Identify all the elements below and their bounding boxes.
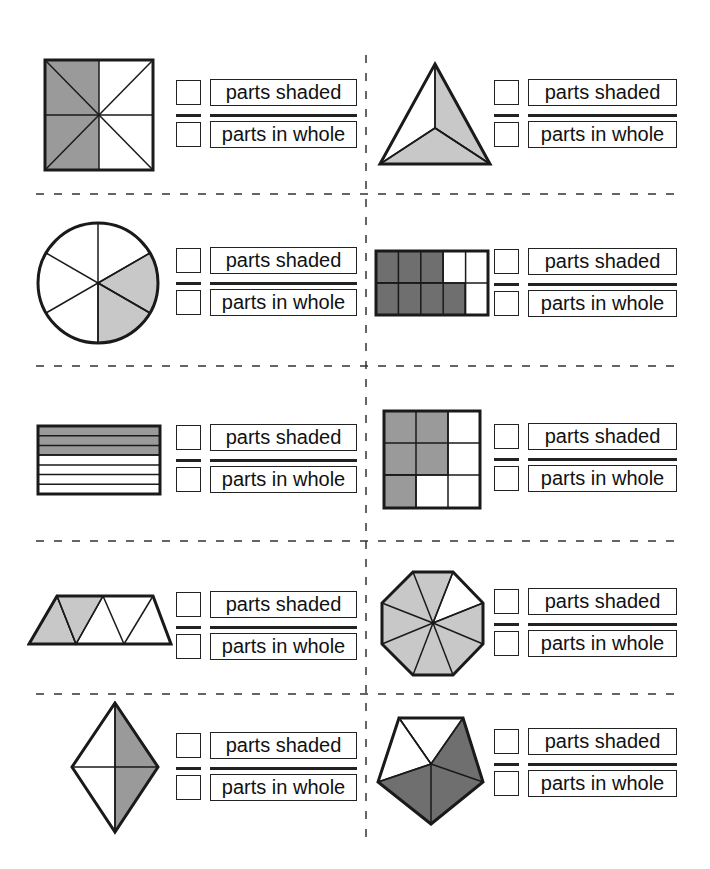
- fraction-answer-10: parts shaded parts in whole: [494, 729, 679, 803]
- fraction-answer-8: parts shaded parts in whole: [494, 589, 679, 663]
- fraction-bar: [494, 114, 519, 117]
- denominator-label: parts in whole: [528, 465, 677, 492]
- trapezoid-5-parts-figure: [27, 594, 173, 646]
- pentagon-5-parts-figure: [375, 716, 487, 826]
- numerator-answer-box[interactable]: [176, 248, 201, 273]
- denominator-answer-box[interactable]: [176, 122, 201, 147]
- fraction-answer-6: parts shaded parts in whole: [494, 424, 679, 498]
- fraction-answer-4: parts shaded parts in whole: [494, 249, 679, 323]
- square-8-parts-figure: [43, 58, 155, 172]
- denominator-label: parts in whole: [210, 466, 357, 493]
- fraction-bar: [210, 459, 357, 462]
- numerator-answer-box[interactable]: [494, 80, 519, 105]
- denominator-answer-box[interactable]: [494, 631, 519, 656]
- rectangle-10-parts-figure: [374, 249, 490, 317]
- fraction-answer-5: parts shaded parts in whole: [176, 425, 361, 499]
- numerator-answer-box[interactable]: [176, 592, 201, 617]
- fraction-bar: [528, 763, 677, 766]
- denominator-answer-box[interactable]: [176, 467, 201, 492]
- denominator-answer-box[interactable]: [494, 291, 519, 316]
- denominator-label: parts in whole: [210, 121, 357, 148]
- denominator-answer-box[interactable]: [176, 290, 201, 315]
- square-9-parts-figure: [382, 409, 482, 510]
- numerator-label: parts shaded: [528, 423, 677, 450]
- fraction-bar: [210, 767, 357, 770]
- rhombus-4-parts-figure: [70, 701, 160, 835]
- fraction-bar: [210, 626, 357, 629]
- numerator-label: parts shaded: [528, 248, 677, 275]
- fraction-answer-1: parts shaded parts in whole: [176, 80, 361, 154]
- fraction-bar: [528, 283, 677, 286]
- fraction-answer-3: parts shaded parts in whole: [176, 248, 361, 322]
- denominator-label: parts in whole: [210, 774, 357, 801]
- numerator-answer-box[interactable]: [494, 249, 519, 274]
- denominator-label: parts in whole: [210, 633, 357, 660]
- denominator-answer-box[interactable]: [176, 775, 201, 800]
- fraction-bar: [176, 114, 201, 117]
- fraction-bar: [176, 626, 201, 629]
- fraction-bar: [210, 282, 357, 285]
- fraction-bar: [494, 458, 519, 461]
- denominator-label: parts in whole: [528, 770, 677, 797]
- fraction-bar: [528, 114, 677, 117]
- fraction-bar: [494, 763, 519, 766]
- fraction-bar: [528, 458, 677, 461]
- circle-6-parts-figure: [35, 220, 161, 346]
- numerator-label: parts shaded: [210, 247, 357, 274]
- numerator-answer-box[interactable]: [494, 729, 519, 754]
- denominator-label: parts in whole: [528, 630, 677, 657]
- octagon-8-parts-figure: [380, 570, 486, 678]
- numerator-label: parts shaded: [210, 591, 357, 618]
- denominator-label: parts in whole: [528, 121, 677, 148]
- denominator-answer-box[interactable]: [176, 634, 201, 659]
- fraction-bar: [494, 623, 519, 626]
- triangle-3-parts-figure: [376, 60, 494, 168]
- denominator-label: parts in whole: [528, 290, 677, 317]
- denominator-answer-box[interactable]: [494, 466, 519, 491]
- numerator-answer-box[interactable]: [176, 733, 201, 758]
- fraction-worksheet: parts shaded parts in whole parts shaded…: [0, 0, 710, 869]
- denominator-answer-box[interactable]: [494, 771, 519, 796]
- numerator-label: parts shaded: [528, 79, 677, 106]
- numerator-label: parts shaded: [210, 732, 357, 759]
- numerator-label: parts shaded: [528, 728, 677, 755]
- fraction-answer-2: parts shaded parts in whole: [494, 80, 679, 154]
- fraction-bar: [494, 283, 519, 286]
- fraction-answer-9: parts shaded parts in whole: [176, 733, 361, 807]
- numerator-label: parts shaded: [210, 79, 357, 106]
- fraction-answer-7: parts shaded parts in whole: [176, 592, 361, 666]
- numerator-answer-box[interactable]: [494, 589, 519, 614]
- denominator-label: parts in whole: [210, 289, 357, 316]
- rectangle-7-strips-figure: [36, 424, 162, 496]
- numerator-answer-box[interactable]: [176, 80, 201, 105]
- numerator-label: parts shaded: [210, 424, 357, 451]
- fraction-bar: [176, 459, 201, 462]
- numerator-answer-box[interactable]: [494, 424, 519, 449]
- fraction-bar: [176, 767, 201, 770]
- numerator-label: parts shaded: [528, 588, 677, 615]
- fraction-bar: [176, 282, 201, 285]
- denominator-answer-box[interactable]: [494, 122, 519, 147]
- fraction-bar: [528, 623, 677, 626]
- numerator-answer-box[interactable]: [176, 425, 201, 450]
- fraction-bar: [210, 114, 357, 117]
